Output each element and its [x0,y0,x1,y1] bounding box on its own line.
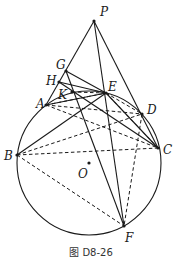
segment-bc-dashed [17,148,158,155]
segment-ed-dashed [106,93,142,114]
label-h: H [45,74,57,88]
label-e: E [107,80,117,94]
label-p: P [99,5,109,19]
segment-ad-dashed [46,105,142,114]
label-o: O [78,167,88,181]
point-f [122,224,125,227]
point-h [57,80,60,83]
segment-gf [66,71,124,226]
figure-caption: 图 D8-26 [69,247,113,258]
label-d: D [146,103,157,117]
segment-ec [106,93,158,148]
point-p [92,19,95,22]
point-k [70,90,73,93]
label-a: A [35,97,45,111]
points [15,19,159,227]
label-k: K [57,88,68,102]
point-c [156,146,159,149]
label-g: G [56,58,66,72]
point-d [140,112,143,115]
point-a [44,103,47,106]
segment-ac-dashed [46,105,158,148]
segment-ge [66,71,106,93]
segment-bd-dashed [17,114,142,155]
label-f: F [124,231,134,245]
point-o [87,161,90,164]
segment-bf-dashed [17,155,124,226]
label-c: C [163,143,172,157]
geometry-figure: PGHKAEDCBOF 图 D8-26 [0,0,182,261]
point-b [15,153,18,156]
label-b: B [3,149,13,163]
solid-segments [17,21,158,226]
